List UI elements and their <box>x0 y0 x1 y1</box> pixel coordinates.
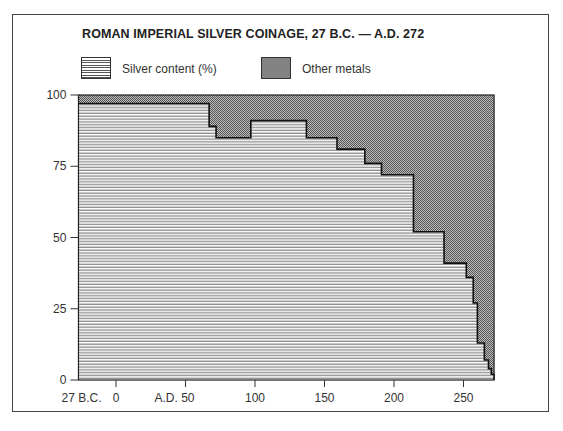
x-tick-label: 27 B.C. <box>61 391 101 405</box>
x-tick-label: A.D. 50 <box>154 391 194 405</box>
y-tick-label: 50 <box>53 231 67 245</box>
y-tick-label: 25 <box>53 302 67 316</box>
y-tick-label: 75 <box>53 159 67 173</box>
x-tick-label: 100 <box>245 391 265 405</box>
y-tick-label: 0 <box>60 373 67 387</box>
x-tick-label: 200 <box>384 391 404 405</box>
x-tick-label: 0 <box>113 391 120 405</box>
chart-series <box>78 95 494 380</box>
x-tick-label: 150 <box>314 391 334 405</box>
plot-area: 025507510027 B.C.0A.D. 50100150200250 <box>0 0 563 431</box>
y-tick-label: 100 <box>46 88 66 102</box>
x-tick-label: 250 <box>453 391 473 405</box>
